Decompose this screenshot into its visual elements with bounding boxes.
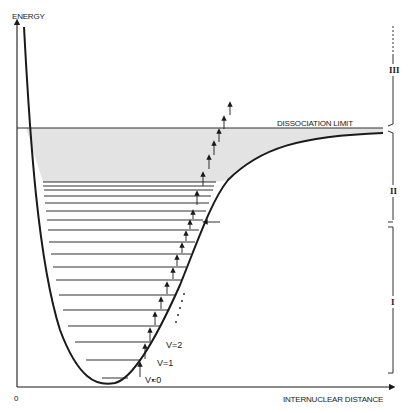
region-label-III: III — [389, 65, 400, 75]
level-label-v2: V=2 — [166, 340, 182, 350]
x-axis-label: INTERNUCLEAR DISTANCE — [283, 395, 383, 404]
y-axis-label: ENERGY — [12, 12, 45, 21]
level-label-v1: V=1 — [157, 358, 173, 368]
level-label-v0: V=0 — [145, 375, 161, 385]
region-label-II: II — [390, 186, 398, 196]
dissociation-limit-label: DISSOCIATION LIMIT — [277, 119, 353, 128]
region-brackets — [388, 26, 393, 373]
potential-energy-curve — [24, 27, 383, 384]
region-label-I: I — [391, 297, 395, 307]
potential-energy-diagram: ENERGY INTERNUCLEAR DISTANCE 0 DISSOCIAT… — [0, 0, 409, 413]
origin-label: 0 — [14, 394, 19, 403]
